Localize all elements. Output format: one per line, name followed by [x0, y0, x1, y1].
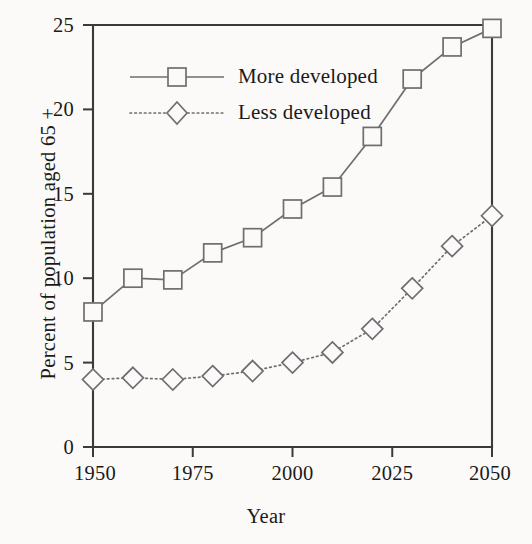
x-axis-title: Year [0, 505, 532, 528]
data-point-marker [282, 352, 303, 373]
legend-label-more-developed: More developed [238, 64, 378, 89]
data-point-marker [323, 178, 341, 196]
legend-square-marker [168, 68, 186, 86]
x-tick-label-1975: 1975 [172, 462, 214, 485]
data-point-marker [403, 70, 421, 88]
data-point-marker [443, 38, 461, 56]
data-point-marker [162, 369, 183, 390]
data-point-marker [363, 127, 381, 145]
data-point-marker [483, 19, 501, 37]
data-point-marker [322, 342, 343, 363]
x-tick-label-2050: 2050 [469, 462, 511, 485]
y-tick-label-25: 25 [28, 14, 74, 37]
legend-diamond-marker [167, 102, 187, 124]
legend-label-less-developed: Less developed [238, 100, 371, 125]
data-point-marker [244, 229, 262, 247]
chart-figure: More developed Less developed 25 20 15 1… [0, 0, 532, 544]
data-point-marker [202, 366, 223, 387]
data-point-marker [122, 367, 143, 388]
y-axis-title: Percent of population aged 65 + [37, 64, 60, 424]
x-tick-label-2000: 2000 [272, 462, 314, 485]
x-tick-label-2025: 2025 [371, 462, 413, 485]
legend-glyphs [130, 68, 224, 124]
x-tick-label-1950: 1950 [74, 462, 116, 485]
data-point-marker [204, 244, 222, 262]
data-point-marker [124, 269, 142, 287]
data-point-marker [242, 361, 263, 382]
data-point-marker [164, 271, 182, 289]
data-point-marker [83, 369, 104, 390]
data-point-marker [482, 205, 503, 226]
y-tick-label-0: 0 [28, 436, 74, 459]
data-point-marker [84, 303, 102, 321]
data-point-marker [284, 200, 302, 218]
x-axis-ticks [93, 447, 492, 457]
